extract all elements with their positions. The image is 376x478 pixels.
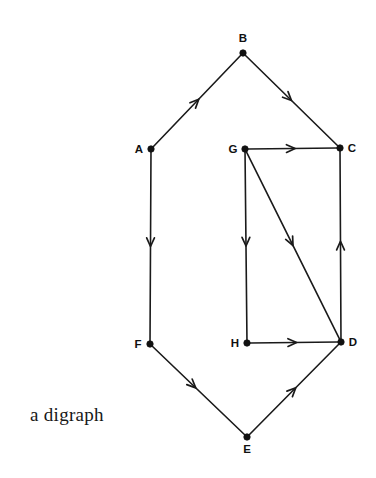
- vertex-c: [337, 145, 343, 151]
- vertex-a: [148, 146, 154, 152]
- vertex-label-b: B: [239, 32, 247, 44]
- digraph-figure: ABCDEFGH a digraph: [0, 0, 376, 478]
- vertex-d: [338, 339, 344, 345]
- vertex-f: [147, 341, 153, 347]
- vertex-label-g: G: [229, 143, 238, 155]
- vertex-g: [242, 146, 248, 152]
- vertex-label-f: F: [134, 338, 141, 350]
- vertex-b: [240, 50, 246, 56]
- arrowheads-layer: [147, 92, 345, 397]
- figure-caption: a digraph: [30, 404, 104, 426]
- edge-f-e: [152, 346, 244, 435]
- vertex-e: [244, 434, 250, 440]
- edge-d-c: [340, 151, 341, 339]
- vertex-label-d: D: [349, 336, 357, 348]
- vertex-label-c: C: [348, 142, 356, 154]
- vertex-label-h: H: [231, 337, 239, 349]
- vertex-h: [244, 340, 250, 346]
- edge-e-d: [249, 344, 338, 434]
- vertex-label-e: E: [243, 443, 251, 455]
- vertex-label-a: A: [135, 143, 143, 155]
- edge-a-b: [153, 55, 241, 146]
